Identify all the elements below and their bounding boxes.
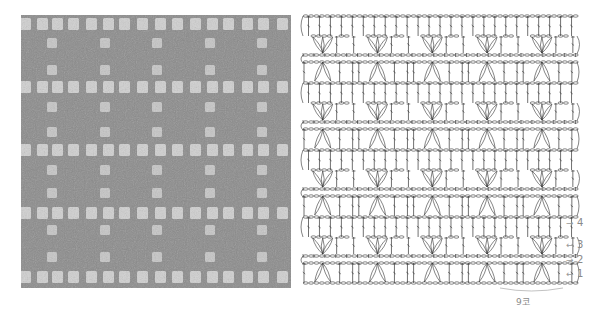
- stitch-count-label: 9코: [516, 295, 530, 308]
- row-1-arrow: ←: [566, 269, 574, 279]
- row-1-label: 1: [577, 269, 583, 279]
- row-3-arrow: ←: [566, 240, 574, 250]
- row-3-label: 3: [577, 240, 583, 250]
- row-4-label: 4: [577, 218, 583, 228]
- row-2-arrow: →: [566, 255, 574, 265]
- row-4-arrow: →: [566, 218, 574, 228]
- crochet-chart: [298, 8, 601, 313]
- row-2-label: 2: [577, 255, 583, 265]
- swatch-photo: [21, 15, 291, 288]
